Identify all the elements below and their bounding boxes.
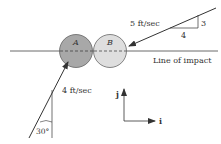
ball-b: B bbox=[94, 35, 127, 68]
slope-rise-label: 3 bbox=[201, 19, 206, 28]
ball-b-label: B bbox=[106, 38, 113, 47]
velocity-a-label: 4 ft/sec bbox=[62, 86, 92, 95]
i-axis-label: i bbox=[159, 116, 162, 126]
slope-run-label: 4 bbox=[181, 31, 186, 40]
velocity-b-label: 5 ft/sec bbox=[130, 19, 160, 28]
j-axis-label: j bbox=[115, 89, 119, 99]
unit-axes: j i bbox=[115, 89, 162, 126]
ball-a-label: A bbox=[72, 38, 79, 47]
impact-diagram: A B 5 ft/sec 3 4 Line of impact 4 ft/sec… bbox=[0, 0, 221, 144]
ball-a: A bbox=[60, 35, 93, 68]
line-of-impact-label: Line of impact bbox=[153, 56, 212, 65]
angle-arc bbox=[40, 121, 52, 123]
angle-label: 30° bbox=[36, 127, 50, 136]
